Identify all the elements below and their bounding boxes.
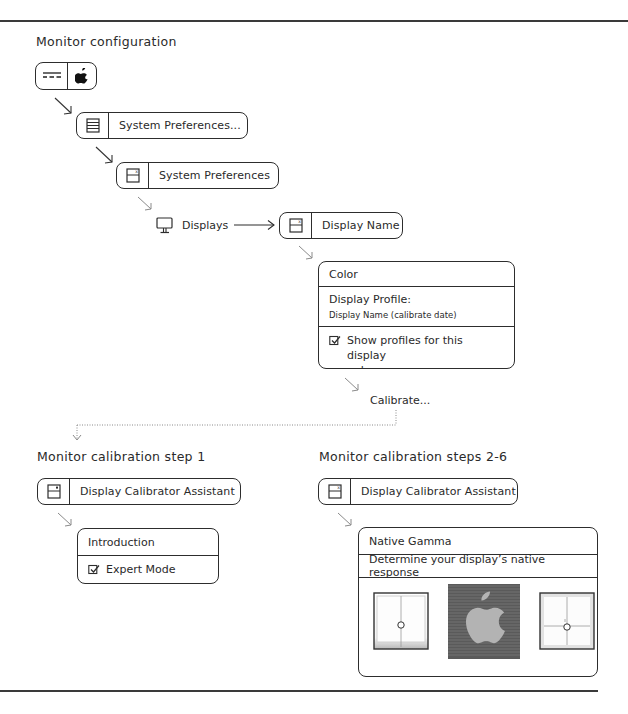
- gamma-images-row: [359, 578, 597, 676]
- svg-text:x: x: [135, 169, 138, 174]
- window-icon: x: [319, 479, 351, 504]
- introduction-panel: Introduction Expert Mode: [77, 528, 219, 584]
- system-preferences-menu-label: System Preferences...: [109, 113, 241, 138]
- svg-text:x: x: [298, 219, 301, 224]
- list-icon: [77, 113, 109, 138]
- calibrator-assistant-window-steps2-6[interactable]: x Display Calibrator Assistant: [318, 478, 518, 505]
- monitor-icon: [156, 217, 174, 234]
- display-profile-row[interactable]: Display Profile: Display Name (calibrate…: [319, 287, 514, 327]
- section-title-monitor-configuration: Monitor configuration: [36, 34, 177, 49]
- section-title-calibration-steps2-6: Monitor calibration steps 2-6: [319, 449, 507, 464]
- arrow-menu-to-window: [93, 144, 117, 166]
- gamma-slider-left[interactable]: [373, 592, 429, 650]
- calibrator-assistant-label-steps2-6: Display Calibrator Assistant: [351, 479, 516, 504]
- bottom-divider: [0, 690, 598, 692]
- native-gamma-subtitle: Determine your display’s native response: [369, 553, 587, 579]
- displays-pane-item[interactable]: Displays: [156, 214, 228, 236]
- color-tab[interactable]: Color: [319, 262, 514, 287]
- display-profile-label: Display Profile:: [329, 293, 504, 306]
- checkbox-checked-icon[interactable]: [329, 335, 341, 346]
- svg-text:x: x: [337, 485, 340, 490]
- system-preferences-window[interactable]: x System Preferences: [116, 162, 279, 189]
- gamma-slider-right[interactable]: [539, 592, 595, 650]
- show-profiles-checkbox-row[interactable]: Show profiles for this display only: [319, 327, 514, 369]
- apple-striped-pattern: [448, 584, 520, 659]
- menu-bar-icon: [36, 63, 68, 89]
- display-name-window[interactable]: x Display Name: [279, 212, 403, 239]
- show-profiles-label-line1: Show profiles for this display: [347, 333, 504, 363]
- system-preferences-window-label: System Preferences: [149, 163, 270, 188]
- arrow-window-to-displays: [135, 194, 157, 214]
- native-gamma-title-row: Native Gamma: [359, 528, 597, 555]
- arrow-assistant-to-gamma: [335, 510, 357, 530]
- calibrate-button[interactable]: Calibrate...: [370, 394, 430, 407]
- window-icon: x: [117, 163, 149, 188]
- displays-label: Displays: [182, 219, 228, 232]
- apple-menu-bar[interactable]: [35, 62, 97, 90]
- native-gamma-panel: Native Gamma Determine your display’s na…: [358, 527, 598, 677]
- system-preferences-menu-item[interactable]: System Preferences...: [76, 112, 248, 139]
- top-divider: [0, 20, 628, 22]
- display-profile-value[interactable]: Display Name (calibrate date): [329, 310, 504, 320]
- dotted-connector-calibrate-to-step1: [70, 408, 400, 444]
- window-icon: [38, 479, 70, 504]
- native-gamma-subtitle-row: Determine your display’s native response: [359, 555, 597, 578]
- window-icon: x: [280, 213, 312, 238]
- calibrator-assistant-label-step1: Display Calibrator Assistant: [70, 479, 235, 504]
- arrow-apple-to-sysprefs-menu: [52, 95, 76, 117]
- arrow-display-name-to-color: [296, 243, 318, 263]
- show-profiles-label-line2: only: [347, 363, 504, 369]
- color-tab-label: Color: [329, 268, 358, 281]
- apple-logo-icon[interactable]: [68, 63, 96, 89]
- checkbox-checked-icon[interactable]: [88, 564, 100, 575]
- color-panel: Color Display Profile: Display Name (cal…: [318, 261, 515, 369]
- expert-mode-label: Expert Mode: [106, 563, 176, 576]
- native-gamma-title: Native Gamma: [369, 535, 452, 548]
- calibrator-assistant-window-step1[interactable]: Display Calibrator Assistant: [37, 478, 241, 505]
- arrow-assistant-to-intro: [55, 510, 77, 530]
- arrow-displays-to-display-name: [233, 219, 277, 231]
- introduction-title-row: Introduction: [78, 529, 218, 556]
- introduction-title: Introduction: [88, 536, 155, 549]
- arrow-color-to-calibrate: [342, 375, 364, 395]
- expert-mode-checkbox-row[interactable]: Expert Mode: [78, 556, 218, 583]
- section-title-calibration-step1: Monitor calibration step 1: [37, 449, 205, 464]
- display-name-window-label: Display Name: [312, 213, 400, 238]
